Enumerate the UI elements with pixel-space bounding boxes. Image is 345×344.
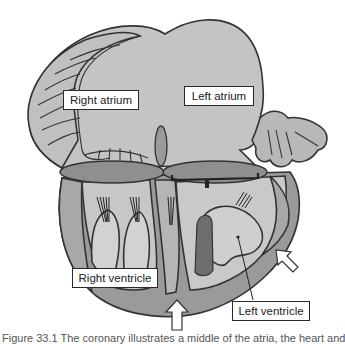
figure-caption: Figure 33.1 The coronary illustrates a m… [2, 332, 345, 344]
lv-dark-cavity [195, 215, 213, 275]
left-atrium-label: Left atrium [184, 86, 254, 106]
tricuspid-valve [60, 161, 164, 183]
left-ventricle-label: Left ventricle [232, 301, 310, 321]
left-auricle [252, 111, 327, 167]
right-ventricle-label: Right ventricle [72, 268, 158, 288]
right-arrow-icon [276, 250, 298, 272]
right-atrium-label: Right atrium [63, 90, 139, 110]
atrial-septum [155, 126, 167, 166]
